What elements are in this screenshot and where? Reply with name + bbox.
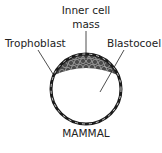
label-blastocoel: Blastocoel [107, 37, 161, 49]
label-trophoblast: Trophoblast [4, 37, 66, 49]
diagram-title: MAMMAL [62, 127, 110, 139]
label-inner-cell-mass-line2: mass [72, 18, 100, 30]
trophoblast-leader [38, 50, 53, 74]
label-inner-cell-mass-line1: Inner cell [62, 4, 111, 16]
blastocyst-diagram: Inner cell mass Trophoblast Blastocoel M… [0, 0, 162, 153]
